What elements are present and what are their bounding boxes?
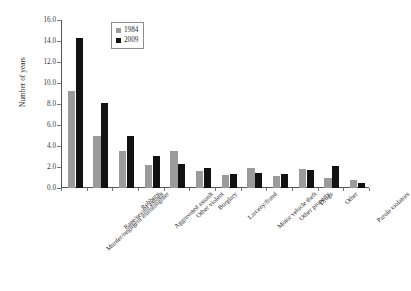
x-axis-category-label: Parole violators <box>375 190 410 223</box>
y-axis-tick-label: 0.0 <box>47 184 56 192</box>
chart-legend: 19842009 <box>111 22 144 49</box>
bar-group <box>164 20 190 188</box>
bar-1984 <box>170 151 177 188</box>
bar-2009 <box>153 156 160 188</box>
x-axis-category-label: Drugs <box>317 190 334 206</box>
bar-2009 <box>358 183 365 188</box>
y-axis-tick-label: 14.0 <box>43 37 56 45</box>
bar-1984 <box>145 165 152 188</box>
bar-1984 <box>222 175 229 188</box>
y-axis-tick-label: 4.0 <box>47 142 56 150</box>
bar-group <box>189 20 215 188</box>
plot-area: 0.02.04.06.08.010.012.014.016.0 <box>61 20 369 188</box>
bar-1984 <box>247 168 254 188</box>
bar-group <box>266 20 292 188</box>
bar-1984 <box>273 176 280 188</box>
bar-1984 <box>350 180 357 188</box>
x-axis-category-labels: Murder/negligent manslaughterRape/sexual… <box>61 190 377 291</box>
bar-2009 <box>204 168 211 188</box>
y-axis-tick-label: 2.0 <box>47 163 56 171</box>
bar-group <box>215 20 241 188</box>
bar-group <box>241 20 267 188</box>
bar-1984 <box>93 136 100 189</box>
legend-label: 1984 <box>124 26 138 35</box>
bar-group <box>318 20 344 188</box>
y-axis-tick-label: 6.0 <box>47 121 56 129</box>
legend-item: 1984 <box>116 25 138 35</box>
bar-2009 <box>127 136 134 189</box>
bar-1984 <box>196 171 203 188</box>
y-axis-tick-label: 10.0 <box>43 79 56 87</box>
legend-item: 2009 <box>116 35 138 45</box>
legend-label: 2009 <box>124 36 138 45</box>
bar-1984 <box>68 91 75 188</box>
bar-2009 <box>307 170 314 188</box>
bar-2009 <box>178 164 185 188</box>
bar-1984 <box>119 151 126 188</box>
y-axis-tick-label: 12.0 <box>43 58 56 66</box>
bar-2009 <box>230 174 237 188</box>
bar-2009 <box>101 103 108 188</box>
y-axis-tick-label: 8.0 <box>47 100 56 108</box>
legend-swatch-icon <box>116 38 121 43</box>
bar-group <box>292 20 318 188</box>
bar-2009 <box>281 174 288 188</box>
bar-group <box>343 20 369 188</box>
x-axis-category-label: Larceny/fraud <box>246 190 278 221</box>
bar-2009 <box>255 173 262 188</box>
bar-2009 <box>76 38 83 188</box>
bar-2009 <box>332 166 339 188</box>
y-axis-title: Number of years <box>19 32 27 132</box>
bar-group <box>87 20 113 188</box>
y-axis-tick-label: 16.0 <box>43 16 56 24</box>
legend-swatch-icon <box>116 28 121 33</box>
bar-1984 <box>324 178 331 189</box>
bar-1984 <box>299 169 306 188</box>
bar-group <box>61 20 87 188</box>
x-axis-category-label: Other <box>343 190 359 205</box>
